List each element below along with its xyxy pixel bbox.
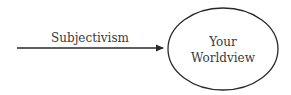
worldview-node: Your Worldview [168,8,278,90]
node-label-line2: Worldview [191,51,256,65]
diagram-canvas: Subjectivism Your Worldview [0,0,291,95]
worldview-ellipse [168,8,278,90]
arrow-label: Subjectivism [51,31,130,45]
node-label-line1: Your [208,35,237,49]
subjectivism-arrow: Subjectivism [17,31,163,48]
